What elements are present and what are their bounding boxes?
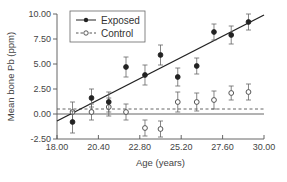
control-data-point [229, 91, 234, 96]
x-tick-label: 25.20 [170, 142, 193, 152]
legend-exposed-marker-icon [84, 18, 88, 22]
chart-area: -2.500.002.505.007.5010.0018.0020.4022.8… [0, 0, 287, 182]
y-tick-label: 2.50 [33, 84, 51, 94]
y-axis-title: Mean bone Pb (ppm) [5, 32, 16, 121]
control-data-point [143, 126, 148, 131]
control-data-point [246, 90, 251, 95]
x-tick-label: 20.40 [87, 142, 110, 152]
x-tick-label: 22.80 [129, 142, 152, 152]
control-data-point [124, 110, 129, 115]
exposed-data-point [106, 100, 111, 105]
legend: Exposed Control [70, 11, 145, 42]
exposed-data-point [158, 53, 163, 58]
exposed-data-point [70, 120, 75, 125]
y-tick-label: 5.00 [33, 59, 51, 69]
exposed-data-point [175, 75, 180, 80]
y-tick-label: 7.50 [33, 34, 51, 44]
legend-label-exposed: Exposed [101, 15, 140, 26]
legend-label-control: Control [101, 28, 133, 39]
exposed-data-point [124, 65, 129, 70]
exposed-data-point [89, 96, 94, 101]
legend-control-marker-icon [84, 31, 88, 35]
x-axis-title: Age (years) [136, 157, 185, 168]
y-tick-label: 10.00 [28, 9, 51, 19]
exposed-data-point [229, 33, 234, 38]
control-data-point [212, 98, 217, 103]
control-data-point [89, 110, 94, 115]
control-data-point [158, 127, 163, 132]
y-tick-label: 0.00 [33, 109, 51, 119]
x-tick-label: 30.00 [253, 142, 276, 152]
x-tick-label: 18.00 [46, 142, 69, 152]
control-data-point [175, 100, 180, 105]
exposed-data-point [194, 64, 199, 69]
exposed-data-point [143, 73, 148, 78]
control-data-point [194, 100, 199, 105]
x-tick-label: 27.60 [211, 142, 234, 152]
exposed-data-point [212, 30, 217, 35]
exposed-data-point [246, 20, 251, 25]
